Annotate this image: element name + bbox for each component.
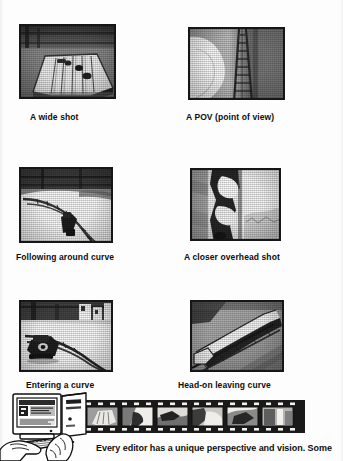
photo-scene [192,170,279,239]
photo-entering-curve [19,300,113,372]
photo-wide-shot [19,24,116,99]
following-curve-artwork [21,169,113,243]
filmstrip-frame [87,407,118,426]
figure-pov [188,27,285,100]
figure-closer-overhead [190,168,281,241]
filmstrip-frame [192,407,223,426]
monitor-screen-content [19,400,55,425]
photo-following-curve [19,167,113,243]
photo-scene [192,302,282,370]
photo-scene [190,29,283,98]
head-on-leaving-artwork [192,302,284,372]
filmstrip-icon [83,400,305,433]
caption-wide-shot: A wide shot [30,112,78,122]
caption-pov: A POV (point of view) [186,112,274,122]
scanned-page: A wide shot [0,0,343,461]
filmstrip-frame [157,407,188,426]
pov-artwork [190,29,285,100]
computer-tower-icon [62,393,86,437]
computer-monitor-icon [13,394,61,439]
photo-scene [21,302,111,370]
photo-closer-overhead [190,168,281,241]
closer-overhead-artwork [192,170,281,241]
figure-head-on-leaving [190,300,284,372]
caption-closer-overhead: A closer overhead shot [184,252,280,262]
filmstrip-frame [122,407,153,426]
photo-scene [21,169,111,241]
photo-pov [188,27,285,100]
filmstrip-frame [227,407,258,426]
wide-shot-artwork [21,26,116,99]
filmstrip-frame [262,407,293,426]
figure-wide-shot [19,24,116,99]
body-paragraph-line: Every editor has a unique perspective an… [96,443,332,453]
photo-scene [21,26,114,97]
entering-curve-artwork [21,302,113,372]
photo-head-on-leaving [190,300,284,372]
figure-entering-curve [19,300,113,372]
caption-following-curve: Following around curve [16,252,114,262]
figure-following-curve [19,167,113,243]
